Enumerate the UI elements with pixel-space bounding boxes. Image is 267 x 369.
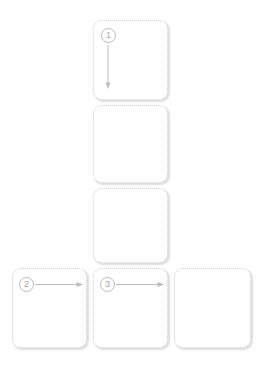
panel-column-middle-3[interactable] — [93, 188, 168, 263]
panel-column-middle-2[interactable] — [93, 105, 168, 183]
step-marker-1: 1 — [101, 28, 116, 43]
panel-content-area — [94, 106, 167, 182]
panel-content-area — [94, 189, 167, 262]
step-marker-2: 2 — [19, 277, 34, 292]
panel-row-bottom-3[interactable] — [174, 268, 251, 348]
panel-content-area — [175, 269, 250, 347]
step-marker-3: 3 — [100, 277, 115, 292]
storyboard-canvas: 1 2 3 — [0, 0, 267, 369]
